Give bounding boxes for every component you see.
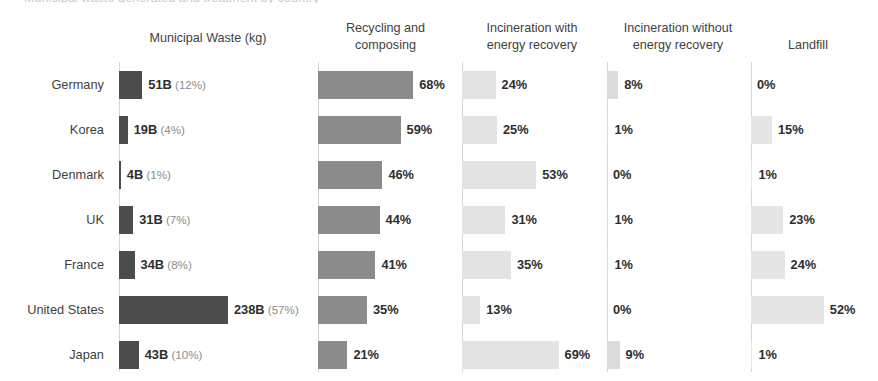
bar-value-main: 69%	[565, 347, 591, 362]
bar-row: 25%	[462, 107, 604, 152]
panel-header-recycling-composing: Recycling and composing	[318, 20, 453, 54]
bar-value-main: 1%	[614, 212, 633, 227]
bar-value-label: 23%	[783, 212, 815, 227]
bar-row: 51B (12%)	[119, 62, 309, 107]
bar-row: 68%	[318, 62, 458, 107]
bar-row: 0%	[751, 62, 877, 107]
bar-row: 69%	[462, 332, 604, 377]
bar-value-main: 238B	[234, 302, 265, 317]
bar-value-label: 25%	[497, 122, 529, 137]
bar-incwith	[462, 116, 497, 144]
bar-row: 59%	[318, 107, 458, 152]
bar-row: 35%	[318, 287, 458, 332]
bar-row: 15%	[751, 107, 877, 152]
bar-value-label: 43B (10%)	[139, 347, 203, 362]
bar-value-main: 13%	[486, 302, 512, 317]
bar-value-main: 35%	[517, 257, 543, 272]
bar-waste	[119, 206, 133, 234]
bar-value-main: 44%	[386, 212, 412, 227]
bar-value-share: (4%)	[157, 123, 185, 136]
bar-value-main: 21%	[353, 347, 379, 362]
bar-incwith	[462, 161, 536, 189]
bar-value-label: 19B (4%)	[128, 122, 185, 137]
bar-value-label: 1%	[752, 347, 777, 362]
bar-value-main: 31B	[139, 212, 162, 227]
bar-landfill	[751, 116, 772, 144]
bar-row: 34B (8%)	[119, 242, 309, 287]
bar-value-label: 24%	[785, 257, 817, 272]
panel-municipal-waste: 51B (12%)19B (4%)4B (1%)31B (7%)34B (8%)…	[119, 62, 309, 378]
bar-value-share: (7%)	[163, 213, 191, 226]
bar-recycle	[318, 161, 382, 189]
bar-value-main: 34B	[141, 257, 164, 272]
bar-value-label: 31B (7%)	[133, 212, 190, 227]
bar-value-main: 1%	[758, 347, 777, 362]
bar-incwith	[462, 296, 480, 324]
bar-value-main: 0%	[613, 302, 632, 317]
bar-row: 19B (4%)	[119, 107, 309, 152]
panel-incineration-without: 8%1%0%1%1%0%9%	[607, 62, 747, 378]
bar-value-main: 24%	[502, 77, 528, 92]
bar-row: 1%	[607, 197, 747, 242]
bar-value-main: 8%	[624, 77, 643, 92]
bar-value-label: 46%	[382, 167, 414, 182]
bar-recycle	[318, 116, 401, 144]
bar-row: 24%	[751, 242, 877, 287]
bar-value-main: 1%	[614, 122, 633, 137]
bar-waste	[119, 341, 139, 369]
bar-value-label: 0%	[607, 302, 632, 317]
country-label: Korea	[0, 107, 112, 152]
bar-row: 1%	[607, 242, 747, 287]
bar-value-label: 1%	[608, 212, 633, 227]
bar-value-main: 52%	[830, 302, 856, 317]
bar-row: 1%	[607, 107, 747, 152]
bar-recycle	[318, 251, 375, 279]
bar-value-main: 46%	[388, 167, 414, 182]
bar-row: 43B (10%)	[119, 332, 309, 377]
bar-waste	[119, 116, 128, 144]
bar-landfill	[751, 251, 785, 279]
bar-value-main: 59%	[407, 122, 433, 137]
country-label: Germany	[0, 62, 112, 107]
bar-value-main: 35%	[373, 302, 399, 317]
bar-landfill	[751, 296, 824, 324]
bar-value-label: 0%	[607, 167, 632, 182]
bar-recycle	[318, 296, 367, 324]
bar-value-main: 53%	[542, 167, 568, 182]
bar-row: 4B (1%)	[119, 152, 309, 197]
bar-row: 31B (7%)	[119, 197, 309, 242]
bar-value-main: 9%	[626, 347, 645, 362]
bar-value-label: 8%	[618, 77, 643, 92]
bar-waste	[119, 296, 228, 324]
bar-row: 0%	[607, 287, 747, 332]
bar-value-label: 15%	[772, 122, 804, 137]
bar-row: 1%	[751, 152, 877, 197]
bar-incwith	[462, 206, 505, 234]
panel-header-landfill: Landfill	[752, 37, 864, 54]
bar-value-label: 52%	[824, 302, 856, 317]
bar-value-main: 25%	[503, 122, 529, 137]
bar-value-label: 1%	[608, 257, 633, 272]
bar-value-label: 44%	[380, 212, 412, 227]
panel-landfill: 0%15%1%23%24%52%1%	[751, 62, 877, 378]
bar-value-label: 21%	[347, 347, 379, 362]
chart-supertitle: Municipal waste generated and treatment …	[24, 0, 584, 3]
bar-value-main: 19B	[134, 122, 157, 137]
bar-value-label: 1%	[608, 122, 633, 137]
bar-value-share: (10%)	[168, 348, 202, 361]
bar-value-main: 0%	[757, 77, 776, 92]
bar-value-label: 35%	[511, 257, 543, 272]
bar-value-share: (12%)	[172, 78, 206, 91]
bar-row: 31%	[462, 197, 604, 242]
bar-value-main: 15%	[778, 122, 804, 137]
panel-header-municipal-waste: Municipal Waste (kg)	[108, 30, 308, 47]
bar-value-label: 13%	[480, 302, 512, 317]
bar-value-label: 1%	[752, 167, 777, 182]
bar-row: 13%	[462, 287, 604, 332]
bar-recycle	[318, 71, 413, 99]
country-label: France	[0, 242, 112, 287]
bar-row: 46%	[318, 152, 458, 197]
country-label: UK	[0, 197, 112, 242]
bar-landfill	[751, 206, 783, 234]
bar-value-label: 68%	[413, 77, 445, 92]
